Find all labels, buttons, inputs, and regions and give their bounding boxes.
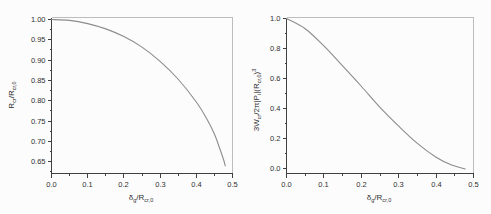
y-tick-label: 1.00 (31, 15, 46, 24)
x-tick-label: 0.4 (191, 180, 201, 189)
axes (52, 18, 233, 174)
x-tick-label: 0.3 (155, 180, 165, 189)
x-tick-label: 0.1 (318, 180, 328, 189)
left-chart-x-axis-label: δg/Rcr,0 (129, 193, 153, 202)
label-subscript: g (371, 196, 374, 202)
right-chart: 0.00.10.20.30.40.50.00.20.40.60.81.0 (270, 14, 479, 188)
curve (52, 20, 226, 166)
x-axis-ticks (52, 174, 233, 178)
left-chart: 0.00.10.20.30.40.50.650.700.750.800.850.… (31, 15, 238, 188)
y-axis-ticks (48, 20, 52, 172)
y-tick-label: 0.80 (31, 96, 46, 105)
y-tick-label: 0.0 (270, 164, 280, 173)
label-subscript: i (255, 94, 261, 95)
y-tick-label: 0.8 (270, 44, 280, 53)
x-tick-label: 0.3 (393, 180, 403, 189)
y-tick-label: 0.6 (270, 74, 280, 83)
label-subscript: cr,0 (382, 196, 391, 202)
x-tick-label: 0.4 (431, 180, 441, 189)
label-subscript: cr (10, 98, 16, 103)
x-tick-label: 0.2 (118, 180, 128, 189)
y-axis-ticks (283, 19, 287, 169)
y-tick-label: 0.85 (31, 76, 46, 85)
label-subscript: cr (255, 115, 261, 120)
x-tick-label: 0.5 (468, 180, 478, 189)
axes (287, 18, 474, 174)
x-tick-label: 0.5 (227, 180, 237, 189)
label-text: R (7, 103, 16, 109)
x-tick-label: 0.1 (82, 180, 92, 189)
x-tick-label: 0.2 (356, 180, 366, 189)
right-chart-y-axis-label: 3Wcr/2π|Pi|(Rcr,0)3 (252, 69, 261, 132)
plot-frame (287, 18, 474, 174)
y-tick-label: 1.0 (270, 14, 280, 23)
left-chart-y-axis-label: Rcr/Rcr,0 (7, 81, 16, 108)
plot-frame (52, 18, 233, 174)
label-subscript: g (133, 196, 136, 202)
right-chart-x-axis-label: δg/Rcr,0 (367, 193, 391, 202)
label-text: /2π|P (252, 95, 261, 115)
figure: 0.00.10.20.30.40.50.650.700.750.800.850.… (0, 0, 491, 214)
label-subscript: cr,0 (144, 196, 153, 202)
y-tick-label: 0.95 (31, 35, 46, 44)
y-tick-label: 0.90 (31, 56, 46, 65)
label-text: /R (136, 193, 144, 202)
x-axis-ticks (287, 174, 474, 178)
x-tick-label: 0.0 (281, 180, 291, 189)
y-tick-label: 0.65 (31, 157, 46, 166)
curve (287, 19, 466, 169)
y-tick-label: 0.70 (31, 137, 46, 146)
label-text: /R (374, 193, 382, 202)
label-subscript: cr,0 (255, 74, 261, 83)
x-tick-label: 0.0 (46, 180, 56, 189)
label-text: 3W (252, 119, 261, 131)
y-tick-label: 0.4 (270, 104, 280, 113)
y-tick-label: 0.2 (270, 134, 280, 143)
label-subscript: cr,0 (10, 81, 16, 90)
label-text: /R (7, 90, 16, 98)
plots-svg: 0.00.10.20.30.40.50.650.700.750.800.850.… (0, 0, 491, 214)
y-tick-label: 0.75 (31, 117, 46, 126)
label-text: |(R (252, 83, 261, 94)
